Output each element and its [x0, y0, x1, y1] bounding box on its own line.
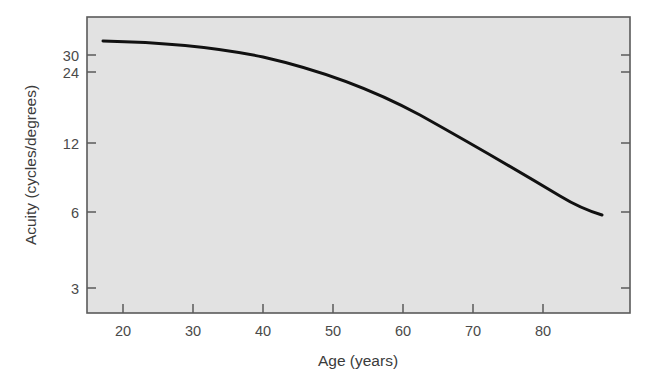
y-tick-label-3: 3	[71, 281, 79, 297]
x-axis-title: Age (years)	[318, 352, 398, 369]
x-tick-label-20: 20	[115, 323, 131, 339]
y-tick-label-24: 24	[63, 65, 79, 81]
x-tick-label-30: 30	[185, 323, 201, 339]
plot-area-background	[87, 17, 630, 313]
x-tick-label-70: 70	[465, 323, 481, 339]
y-tick-label-6: 6	[71, 205, 79, 221]
x-tick-label-80: 80	[535, 323, 551, 339]
x-tick-label-60: 60	[395, 323, 411, 339]
y-tick-label-12: 12	[63, 136, 79, 152]
x-tick-label-40: 40	[255, 323, 271, 339]
y-axis-title: Acuity (cycles/degrees)	[22, 85, 39, 245]
x-tick-label-50: 50	[325, 323, 341, 339]
y-tick-label-30: 30	[63, 48, 79, 64]
acuity-vs-age-chart: 30 24 12 6 3 20 30 40 50 60 70 80 Age (y…	[0, 0, 655, 385]
